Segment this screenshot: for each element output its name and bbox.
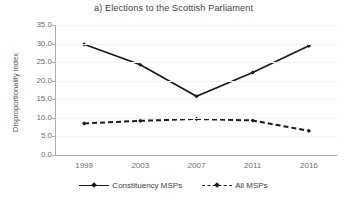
- y-axis-tick-label: 35.0: [18, 21, 52, 29]
- y-axis-tick-label: 20.0: [18, 77, 52, 85]
- y-axis-tick-label: 15.0: [18, 95, 52, 103]
- x-axis-tick-label: 1999: [61, 161, 107, 170]
- gridline: [56, 25, 337, 26]
- gridline: [56, 62, 337, 63]
- x-axis-tick-label: 2016: [286, 161, 332, 170]
- data-point-marker: [251, 118, 255, 122]
- y-axis-tick-label: 10.0: [18, 114, 52, 122]
- legend-swatch-icon: [79, 181, 109, 190]
- data-point-marker: [82, 121, 86, 125]
- y-axis-tick-label: 30.0: [18, 40, 52, 48]
- gridline: [56, 44, 337, 45]
- legend-item-2[interactable]: All MSPs: [202, 181, 267, 190]
- y-axis-tick-mark: [52, 136, 55, 137]
- x-axis-tick-labels: 19992003200720112016: [56, 161, 337, 173]
- gridline: [56, 136, 337, 137]
- chart-legend: Constituency MSPsAll MSPs: [0, 181, 347, 190]
- y-axis-tick-mark: [52, 155, 55, 156]
- plot-area: [56, 25, 337, 155]
- data-point-marker: [138, 119, 142, 123]
- y-axis-tick-mark: [52, 62, 55, 63]
- legend-label: All MSPs: [235, 181, 267, 190]
- legend-item-1[interactable]: Constituency MSPs: [79, 181, 182, 190]
- x-axis-tick-label: 2003: [117, 161, 163, 170]
- y-axis-tick-mark: [52, 81, 55, 82]
- x-axis-tick-label: 2007: [174, 161, 220, 170]
- x-axis-tick-label: 2011: [230, 161, 276, 170]
- y-axis-tick-mark: [52, 99, 55, 100]
- gridline: [56, 118, 337, 119]
- y-axis-tick-mark: [52, 118, 55, 119]
- y-axis-title-container: Disproportionality index: [0, 24, 14, 156]
- y-axis-tick-label: 0.0: [18, 151, 52, 159]
- y-axis-tick-labels: 35.030.025.020.015.010.05.00.0: [14, 0, 52, 208]
- gridline: [56, 99, 337, 100]
- legend-swatch-icon: [202, 181, 232, 190]
- legend-label: Constituency MSPs: [112, 181, 182, 190]
- y-axis-tick-mark: [52, 25, 55, 26]
- series-line-1: [84, 44, 309, 96]
- y-axis-tick-mark: [52, 44, 55, 45]
- data-point-marker: [307, 129, 311, 133]
- chart-figure: a) Elections to the Scottish Parliament …: [0, 0, 347, 208]
- y-axis-tick-label: 25.0: [18, 58, 52, 66]
- x-axis-line: [55, 155, 337, 156]
- chart-title: a) Elections to the Scottish Parliament: [0, 3, 347, 13]
- gridline: [56, 81, 337, 82]
- y-axis-tick-label: 5.0: [18, 132, 52, 140]
